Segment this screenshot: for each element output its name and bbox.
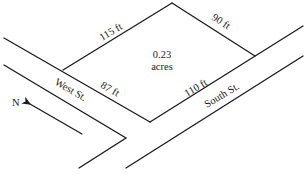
side-label-southwest: 87 ft	[99, 79, 121, 98]
side-label-northwest: 115 ft	[97, 21, 124, 43]
side-label-southeast: 110 ft	[182, 77, 209, 99]
side-label-northeast: 90 ft	[210, 11, 232, 31]
street-label-west: West St.	[53, 76, 89, 103]
area-unit: acres	[151, 61, 173, 72]
area-value: 0.23	[153, 49, 171, 60]
diagram-svg: N 115 ft 90 ft 87 ft 110 ft 0.23 acres W…	[0, 0, 308, 175]
lot-diagram: N 115 ft 90 ft 87 ft 110 ft 0.23 acres W…	[0, 0, 308, 175]
south-st-lower-line	[126, 56, 303, 168]
south-st-upper-line	[150, 26, 303, 122]
compass-label: N	[12, 97, 20, 108]
lot-edge-northeast	[172, 3, 255, 56]
north-arrow-icon	[30, 104, 82, 134]
